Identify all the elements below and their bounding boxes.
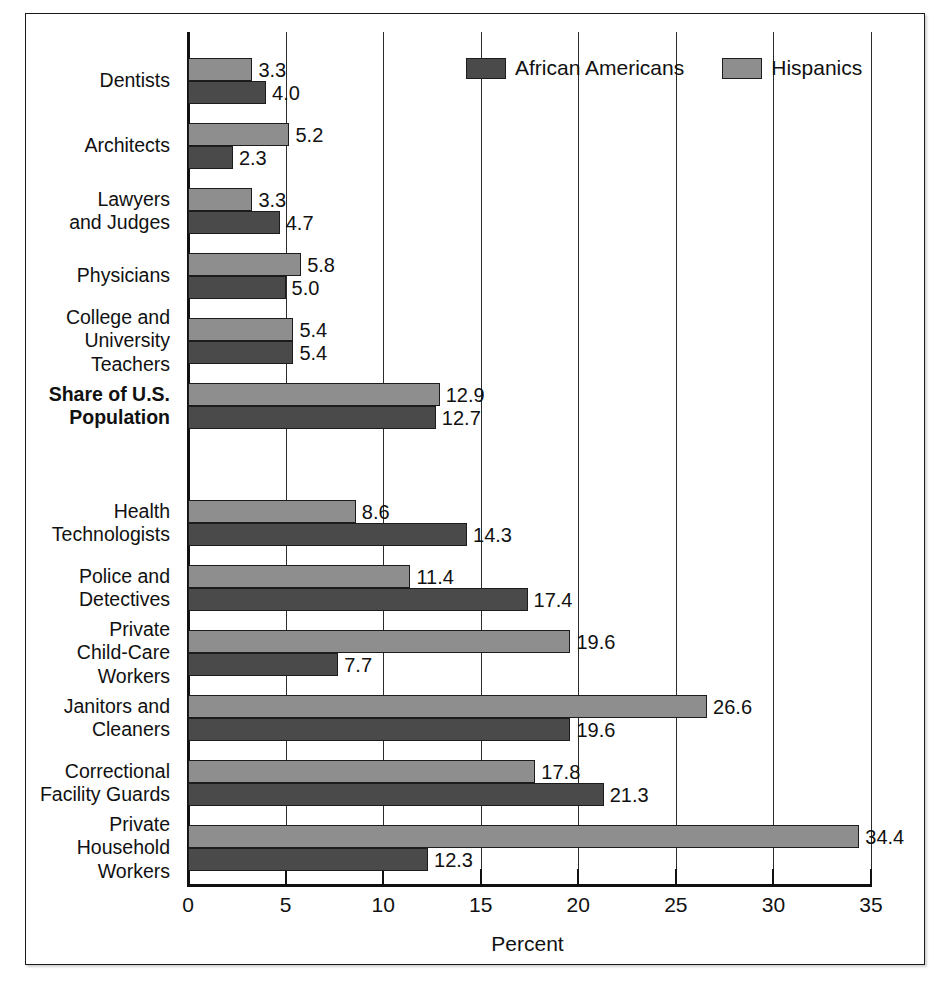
bar-hispanics <box>188 123 289 146</box>
category-label: Health Technologists <box>52 500 170 547</box>
bar-value-african-americans: 7.7 <box>344 655 372 675</box>
x-axis-title: Percent <box>0 932 950 956</box>
bar-hispanics <box>188 188 252 211</box>
gridline-20 <box>578 32 579 884</box>
x-tick-label-35: 35 <box>841 893 901 917</box>
legend-label-hispanics: Hispanics <box>771 56 862 80</box>
bar-hispanics <box>188 500 356 523</box>
category-label: Lawyers and Judges <box>69 188 170 235</box>
bar-value-african-americans: 12.3 <box>434 850 473 870</box>
x-tick-label-10: 10 <box>353 893 413 917</box>
category-label: Dentists <box>100 69 170 93</box>
bar-value-african-americans: 19.6 <box>576 720 615 740</box>
bar-african-americans <box>188 211 280 234</box>
bar-hispanics <box>188 565 410 588</box>
bar-african-americans <box>188 718 570 741</box>
gridline-15 <box>481 32 482 884</box>
x-tick-label-15: 15 <box>451 893 511 917</box>
bar-value-hispanics: 12.9 <box>446 385 485 405</box>
x-tick-35 <box>870 869 872 887</box>
legend-swatch-hispanics <box>722 58 762 79</box>
category-label: Share of U.S. Population <box>49 383 170 430</box>
legend-item-african-americans: African Americans <box>466 56 684 80</box>
category-label: Private Child-Care Workers <box>77 618 170 689</box>
gridline-25 <box>676 32 677 884</box>
x-tick-label-5: 5 <box>256 893 316 917</box>
bar-value-hispanics: 34.4 <box>865 827 904 847</box>
bar-value-hispanics: 8.6 <box>362 502 390 522</box>
bar-hispanics <box>188 58 252 81</box>
legend-label-african-americans: African Americans <box>515 56 684 80</box>
category-label: College and University Teachers <box>66 306 170 377</box>
bar-african-americans <box>188 406 436 429</box>
bar-african-americans <box>188 523 467 546</box>
bar-african-americans <box>188 848 428 871</box>
category-label: Physicians <box>77 264 170 288</box>
category-label: Private Household Workers <box>77 813 170 884</box>
category-label: Correctional Facility Guards <box>40 760 170 807</box>
chart-legend: African Americans Hispanics <box>466 56 862 80</box>
category-label: Architects <box>84 134 170 158</box>
x-tick-25 <box>675 869 677 887</box>
x-tick-15 <box>480 869 482 887</box>
legend-swatch-african-americans <box>466 58 506 79</box>
bar-value-hispanics: 11.4 <box>416 567 453 587</box>
bar-value-hispanics: 5.4 <box>299 320 327 340</box>
bar-chart: 05101520253035 3.34.05.22.33.34.75.85.05… <box>0 0 950 985</box>
bar-hispanics <box>188 318 293 341</box>
category-label: Police and Detectives <box>79 565 170 612</box>
x-tick-label-30: 30 <box>743 893 803 917</box>
bar-value-african-americans: 2.3 <box>239 148 267 168</box>
bar-value-african-americans: 4.0 <box>272 83 300 103</box>
category-label: Janitors and Cleaners <box>64 695 170 742</box>
x-tick-label-25: 25 <box>646 893 706 917</box>
bar-hispanics <box>188 253 301 276</box>
bar-african-americans <box>188 588 528 611</box>
bar-value-hispanics: 19.6 <box>576 632 615 652</box>
bar-african-americans <box>188 276 286 299</box>
legend-item-hispanics: Hispanics <box>722 56 862 80</box>
x-axis-title-text: Percent <box>0 932 564 956</box>
x-tick-20 <box>577 869 579 887</box>
bar-hispanics <box>188 760 535 783</box>
bar-african-americans <box>188 341 293 364</box>
bar-hispanics <box>188 825 859 848</box>
bar-value-african-americans: 5.4 <box>299 343 327 363</box>
x-tick-label-20: 20 <box>548 893 608 917</box>
bar-african-americans <box>188 653 338 676</box>
x-tick-30 <box>772 869 774 887</box>
bar-value-hispanics: 17.8 <box>541 762 580 782</box>
bar-hispanics <box>188 695 707 718</box>
bar-value-hispanics: 26.6 <box>713 697 752 717</box>
bar-hispanics <box>188 630 570 653</box>
bar-african-americans <box>188 146 233 169</box>
bar-value-hispanics: 3.3 <box>258 190 286 210</box>
x-tick-label-0: 0 <box>158 893 218 917</box>
x-tick-5 <box>285 869 287 887</box>
bar-value-african-americans: 5.0 <box>292 278 320 298</box>
bar-value-hispanics: 3.3 <box>258 60 286 80</box>
bar-value-hispanics: 5.2 <box>295 125 323 145</box>
bar-value-hispanics: 5.8 <box>307 255 335 275</box>
bar-value-african-americans: 14.3 <box>473 525 512 545</box>
x-tick-0 <box>187 869 189 887</box>
bar-hispanics <box>188 383 440 406</box>
bar-value-african-americans: 12.7 <box>442 408 481 428</box>
gridline-5 <box>286 32 287 884</box>
gridline-10 <box>383 32 384 884</box>
gridline-30 <box>773 32 774 884</box>
x-axis-line <box>187 884 872 887</box>
bar-value-african-americans: 21.3 <box>610 785 649 805</box>
bar-value-african-americans: 17.4 <box>534 590 573 610</box>
bar-african-americans <box>188 783 604 806</box>
gridline-35 <box>871 32 872 884</box>
bar-value-african-americans: 4.7 <box>286 213 314 233</box>
x-tick-10 <box>382 869 384 887</box>
bar-african-americans <box>188 81 266 104</box>
